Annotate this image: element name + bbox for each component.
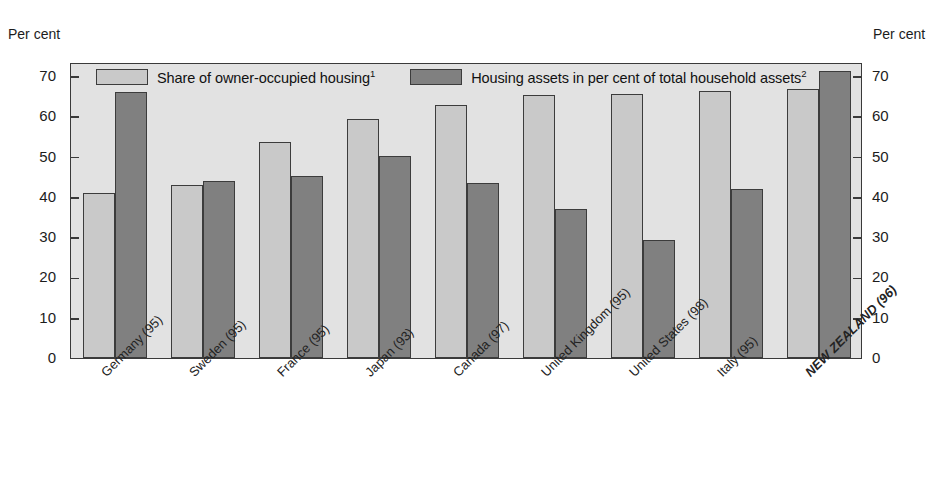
legend-footnote-marker: 2	[801, 68, 806, 79]
axis-tick-label-left: 30	[0, 228, 56, 245]
axis-tick-label-right: 50	[872, 148, 889, 165]
left-axis-caption: Per cent	[8, 26, 60, 42]
axis-tick-label-left: 20	[0, 268, 56, 285]
bar-owner-occupied	[435, 105, 467, 358]
axis-tick-right	[853, 116, 862, 118]
axis-tick-right	[853, 157, 862, 159]
right-axis-caption: Per cent	[873, 26, 925, 42]
axis-tick-label-right: 0	[872, 349, 880, 366]
chart-root: Per cent Per cent Share of owner-occupie…	[0, 0, 932, 502]
axis-tick-label-right: 40	[872, 188, 889, 205]
legend-item: Share of owner-occupied housing1	[96, 68, 375, 86]
axis-tick-left	[70, 197, 79, 199]
axis-tick-left	[70, 157, 79, 159]
bar-owner-occupied	[699, 91, 731, 358]
legend-item: Housing assets in per cent of total hous…	[410, 68, 806, 86]
plot-area	[70, 63, 862, 359]
axis-tick-label-left: 40	[0, 188, 56, 205]
bar-group	[71, 64, 159, 358]
axis-tick-left	[70, 116, 79, 118]
legend-swatch-dark	[410, 69, 462, 85]
bar-housing-assets	[819, 71, 851, 358]
axis-tick-label-left: 0	[0, 349, 56, 366]
bars-layer	[71, 64, 861, 358]
bar-housing-assets	[731, 189, 763, 358]
axis-tick-left	[70, 76, 79, 78]
axis-tick-label-left: 10	[0, 309, 56, 326]
bar-owner-occupied	[523, 95, 555, 358]
legend-label: Housing assets in per cent of total hous…	[471, 68, 806, 86]
axis-tick-label-right: 60	[872, 107, 889, 124]
axis-tick-right	[853, 76, 862, 78]
legend-footnote-marker: 1	[370, 68, 375, 79]
bar-owner-occupied	[259, 142, 291, 358]
axis-tick-right	[853, 237, 862, 239]
bar-group	[247, 64, 335, 358]
axis-tick-left	[70, 318, 79, 320]
axis-tick-left	[70, 278, 79, 280]
bar-group	[775, 64, 863, 358]
axis-tick-left	[70, 237, 79, 239]
axis-tick-label-left: 50	[0, 148, 56, 165]
bar-group	[511, 64, 599, 358]
bar-owner-occupied	[787, 89, 819, 358]
axis-tick-right	[853, 278, 862, 280]
axis-tick-label-right: 70	[872, 67, 889, 84]
bar-owner-occupied	[83, 193, 115, 358]
bar-group	[159, 64, 247, 358]
axis-tick-right	[853, 197, 862, 199]
axis-tick-label-right: 30	[872, 228, 889, 245]
axis-tick-label-left: 60	[0, 107, 56, 124]
chart-legend: Share of owner-occupied housing1Housing …	[96, 68, 806, 86]
bar-group	[423, 64, 511, 358]
legend-swatch-light	[96, 69, 148, 85]
bar-owner-occupied	[611, 94, 643, 358]
bar-owner-occupied	[347, 119, 379, 358]
axis-tick-label-left: 70	[0, 67, 56, 84]
bar-owner-occupied	[171, 185, 203, 358]
bar-group	[335, 64, 423, 358]
legend-label: Share of owner-occupied housing1	[157, 68, 375, 86]
bar-housing-assets	[115, 92, 147, 358]
